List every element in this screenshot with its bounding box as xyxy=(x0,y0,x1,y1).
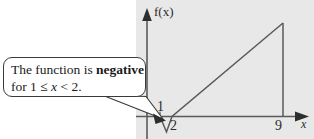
callout-box: The function is negative for 1 ≤ x < 2. xyxy=(3,57,146,97)
callout-line-1-prefix: The function is xyxy=(11,62,96,77)
callout-line-2: for 1 ≤ x < 2. xyxy=(11,78,139,95)
function-curve xyxy=(160,23,283,132)
y-axis-arrowhead-icon xyxy=(142,8,152,21)
tick-label-1: 1 xyxy=(157,100,164,114)
callout-line-2-post: < 2. xyxy=(57,79,82,94)
tick-label-2: 2 xyxy=(170,119,177,133)
x-axis-label: x xyxy=(301,118,306,130)
callout-emphasis-negative: negative xyxy=(96,62,144,77)
callout-line-1: The function is negative xyxy=(11,61,139,78)
y-axis-label: f(x) xyxy=(154,5,174,18)
tick-label-9: 9 xyxy=(275,119,282,133)
figure-container: f(x) x 1 2 9 The function is negative fo… xyxy=(0,0,314,139)
callout-line-2-pre: for 1 ≤ xyxy=(11,79,51,94)
